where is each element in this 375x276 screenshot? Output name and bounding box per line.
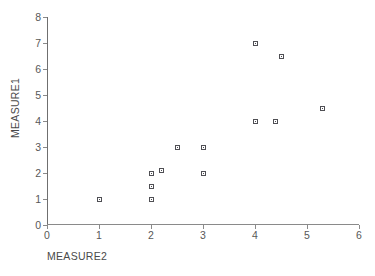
y-tick-label: 8 [35, 12, 41, 23]
x-tick-label: 2 [148, 230, 154, 241]
x-axis-title: MEASURE2 [47, 250, 107, 262]
data-point [149, 171, 154, 176]
data-point [149, 184, 154, 189]
y-tick-mark [43, 95, 47, 96]
data-point [149, 197, 154, 202]
y-tick-mark [43, 17, 47, 18]
y-tick-mark [43, 173, 47, 174]
x-tick-label: 3 [200, 230, 206, 241]
x-tick-label: 6 [356, 230, 362, 241]
y-tick-mark [43, 69, 47, 70]
y-tick-mark [43, 147, 47, 148]
data-point [253, 119, 258, 124]
data-point [97, 197, 102, 202]
plot-area: 012345678 0123456 [47, 17, 359, 225]
y-tick-label: 1 [35, 194, 41, 205]
y-tick-label: 4 [35, 116, 41, 127]
y-axis-title: MEASURE1 [9, 78, 21, 138]
y-tick-label: 5 [35, 90, 41, 101]
x-tick-label: 0 [44, 230, 50, 241]
y-tick-mark [43, 199, 47, 200]
data-point [279, 54, 284, 59]
data-point [320, 106, 325, 111]
y-tick-mark [43, 121, 47, 122]
y-tick-label: 6 [35, 64, 41, 75]
y-tick-label: 7 [35, 38, 41, 49]
x-tick-label: 5 [304, 230, 310, 241]
data-point [253, 41, 258, 46]
x-tick-label: 4 [252, 230, 258, 241]
x-tick-label: 1 [96, 230, 102, 241]
data-point [201, 145, 206, 150]
y-tick-label: 3 [35, 142, 41, 153]
scatter-plot-figure: 012345678 0123456 MEASURE1 MEASURE2 [0, 0, 375, 276]
data-point [273, 119, 278, 124]
y-tick-label: 0 [35, 220, 41, 231]
data-point [201, 171, 206, 176]
y-tick-label: 2 [35, 168, 41, 179]
y-axis-line [47, 17, 48, 225]
y-tick-mark [43, 43, 47, 44]
data-point [159, 168, 164, 173]
data-point [175, 145, 180, 150]
